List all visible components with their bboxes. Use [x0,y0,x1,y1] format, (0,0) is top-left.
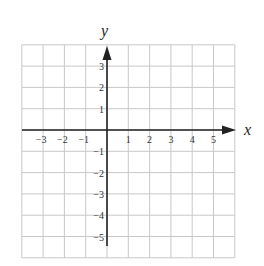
x-tick-label: −2 [57,134,68,145]
x-tick-labels: −3−2−112345 [36,134,216,145]
y-tick-label: −3 [93,189,104,200]
x-tick-label: −3 [36,134,47,145]
y-tick-labels: 321−1−2−3−4−5 [93,61,104,242]
axes [22,46,236,246]
y-tick-label: −1 [93,146,104,157]
coordinate-plane: x y −3−2−112345 321−1−2−3−4−5 [0,0,264,266]
y-tick-label: 1 [99,104,104,115]
y-axis-label: y [99,22,109,40]
x-axis-label: x [243,121,251,138]
x-tick-label: −1 [78,134,89,145]
y-tick-label: −2 [93,168,104,179]
y-tick-label: 3 [99,61,104,72]
x-tick-label: 1 [126,134,131,145]
y-tick-label: −4 [93,210,104,221]
x-tick-label: 3 [168,134,173,145]
x-tick-label: 4 [190,134,195,145]
y-tick-label: 2 [99,82,104,93]
y-axis-arrow-icon [103,46,112,60]
grid [22,45,235,258]
x-axis-arrow-icon [222,126,236,135]
y-tick-label: −5 [93,232,104,243]
x-tick-label: 5 [211,134,216,145]
x-tick-label: 2 [147,134,152,145]
